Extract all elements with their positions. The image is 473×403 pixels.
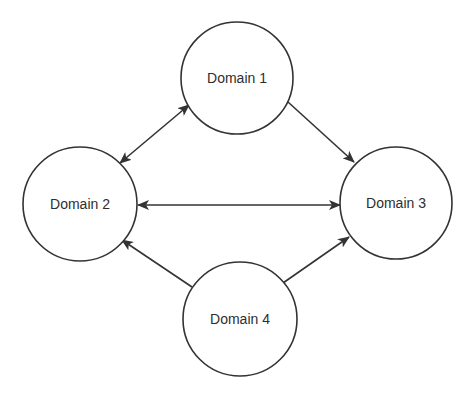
arrow-domain-4-to-domain-2 — [122, 240, 192, 287]
node-domain-3: Domain 3 — [340, 147, 452, 259]
nodes-layer: Domain 1Domain 2Domain 3Domain 4 — [23, 22, 452, 376]
bidirectional-arrow-domain-1-to-domain-2 — [120, 105, 189, 163]
node-label: Domain 3 — [366, 195, 426, 211]
node-domain-2: Domain 2 — [23, 147, 137, 261]
domain-diagram: Domain 1Domain 2Domain 3Domain 4 — [0, 0, 473, 403]
arrow-domain-4-to-domain-3 — [283, 237, 349, 283]
node-label: Domain 4 — [210, 311, 270, 327]
node-domain-4: Domain 4 — [183, 262, 297, 376]
node-domain-1: Domain 1 — [181, 22, 293, 134]
node-label: Domain 1 — [207, 70, 267, 86]
node-label: Domain 2 — [50, 196, 110, 212]
arrow-domain-1-to-domain-3 — [288, 102, 354, 162]
